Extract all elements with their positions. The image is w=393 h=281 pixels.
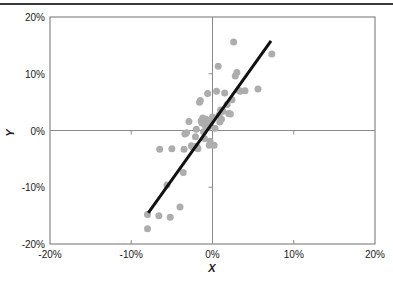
scatter-point [168,145,175,152]
scatter-point [183,129,190,136]
scatter-point [167,214,174,221]
scatter-point [215,63,222,70]
x-tick-label: -10% [120,249,143,260]
scatter-point [197,97,204,104]
y-tick-label: 20% [25,12,45,23]
scatter-point [255,86,262,93]
y-tick-label: 0% [31,126,46,137]
x-tick-label: 0% [205,249,220,260]
scatter-point [193,126,200,133]
scatter-point [211,142,218,149]
scatter-point [242,87,249,94]
chart-canvas: -20%-10%0%10%20% -20%-10%0%10%20% X Y [0,0,393,281]
scatter-point [155,212,162,219]
x-axis-tick-labels: -20%-10%0%10%20% [38,249,385,260]
scatter-point [227,111,234,118]
scatter-plot-figure: -20%-10%0%10%20% -20%-10%0%10%20% X Y [0,0,393,281]
scatter-point [192,133,199,140]
scatter-point [233,69,240,76]
scatter-point [185,118,192,125]
x-tick-label: -20% [38,249,61,260]
scatter-point [221,90,228,97]
scatter-point [268,50,275,57]
scatter-point [213,88,220,95]
x-tick-label: 10% [284,249,304,260]
x-tick-label: 20% [365,249,385,260]
scatter-point [144,225,151,232]
scatter-point [180,169,187,176]
scatter-point [211,125,218,132]
y-axis-title: Y [4,128,16,137]
y-tick-label: 10% [25,69,45,80]
scatter-point [230,38,237,45]
x-axis-title: X [207,262,216,274]
y-axis-tick-labels: -20%-10%0%10%20% [22,12,45,250]
scatter-point [204,90,211,97]
scatter-point [218,116,225,123]
scatter-point [156,146,163,153]
scatter-point [177,204,184,211]
y-tick-label: -10% [22,182,45,193]
y-tick-label: -20% [22,239,45,250]
scatter-point [181,146,188,153]
